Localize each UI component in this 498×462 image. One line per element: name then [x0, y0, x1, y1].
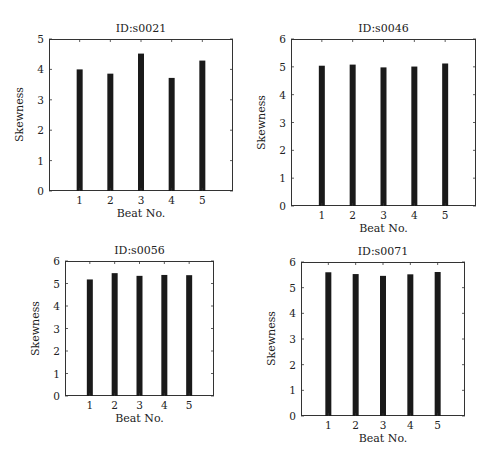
plot-area: 012345612345	[301, 262, 465, 416]
y-axis-label: Skewness	[29, 288, 42, 368]
x-axis-label: Beat No.	[301, 432, 465, 445]
x-axis-label: Beat No.	[49, 207, 233, 220]
y-tick-label: 5	[37, 33, 44, 45]
bar	[137, 276, 143, 396]
y-tick-label: 2	[37, 124, 44, 136]
y-tick-label: 1	[279, 172, 286, 184]
x-axis-label: Beat No.	[291, 222, 476, 235]
y-tick-label: 4	[37, 63, 44, 75]
x-tick-label: 3	[380, 209, 387, 221]
x-tick-label: 4	[407, 419, 414, 431]
bar	[169, 78, 175, 191]
x-tick-label: 1	[318, 209, 325, 221]
bar	[380, 276, 386, 416]
bar	[186, 275, 192, 396]
bar	[381, 67, 387, 206]
y-tick-label: 1	[289, 384, 296, 396]
plot-area: 01234512345	[49, 39, 233, 191]
chart-s0071: ID:s0071 Skewness Beat No. 012345612345	[301, 262, 465, 416]
x-tick-label: 2	[111, 399, 118, 411]
y-tick-label: 2	[279, 144, 286, 156]
y-tick-label: 0	[53, 390, 60, 402]
x-tick-label: 4	[168, 194, 175, 206]
bar	[87, 279, 93, 396]
chart-s0046: ID:s0046 Skewness Beat No. 012345612345	[291, 39, 476, 206]
y-tick-label: 2	[53, 345, 60, 357]
y-tick-label: 6	[53, 255, 60, 267]
chart-s0056: ID:s0056 Skewness Beat No. 012345612345	[65, 261, 214, 396]
x-tick-label: 2	[349, 209, 356, 221]
bar	[350, 65, 356, 206]
x-tick-label: 5	[434, 419, 441, 431]
x-tick-label: 3	[138, 194, 145, 206]
x-tick-label: 5	[442, 209, 449, 221]
bar	[407, 274, 413, 416]
y-tick-label: 0	[37, 185, 44, 197]
y-tick-label: 6	[279, 33, 286, 45]
x-tick-label: 4	[161, 399, 168, 411]
chart-title: ID:s0046	[291, 22, 476, 35]
y-tick-label: 1	[53, 368, 60, 380]
y-tick-label: 5	[279, 61, 286, 73]
x-tick-label: 4	[411, 209, 418, 221]
bar	[107, 74, 113, 191]
x-tick-label: 1	[76, 194, 83, 206]
bar	[77, 69, 83, 191]
bar	[199, 61, 205, 191]
x-tick-label: 2	[107, 194, 114, 206]
y-tick-label: 2	[289, 359, 296, 371]
bar	[325, 272, 331, 416]
y-tick-label: 0	[279, 200, 286, 212]
plot-area: 012345612345	[65, 261, 214, 396]
y-axis-label: Skewness	[13, 75, 26, 155]
chart-title: ID:s0071	[301, 245, 465, 258]
bar	[442, 63, 448, 206]
y-axis-label: Skewness	[255, 82, 268, 162]
y-tick-label: 3	[279, 117, 286, 129]
x-axis-label: Beat No.	[65, 412, 214, 425]
y-tick-label: 3	[37, 94, 44, 106]
bar	[112, 273, 118, 396]
plot-area: 012345612345	[291, 39, 476, 206]
x-tick-label: 2	[352, 419, 359, 431]
x-tick-label: 5	[186, 399, 193, 411]
x-tick-label: 5	[199, 194, 206, 206]
y-tick-label: 0	[289, 410, 296, 422]
bar	[161, 275, 167, 396]
y-tick-label: 5	[289, 282, 296, 294]
bar	[138, 54, 144, 191]
bar	[353, 274, 359, 416]
y-tick-label: 4	[279, 89, 286, 101]
x-tick-label: 1	[325, 419, 332, 431]
y-tick-label: 6	[289, 256, 296, 268]
y-tick-label: 4	[289, 307, 296, 319]
x-tick-label: 3	[380, 419, 387, 431]
y-tick-label: 1	[37, 155, 44, 167]
bar	[319, 66, 325, 206]
bar	[435, 272, 441, 416]
chart-title: ID:s0021	[49, 22, 233, 35]
x-tick-label: 1	[86, 399, 93, 411]
chart-title: ID:s0056	[65, 244, 214, 257]
y-tick-label: 4	[53, 300, 60, 312]
y-axis-label: Skewness	[265, 299, 278, 379]
bar	[411, 67, 417, 206]
x-tick-label: 3	[136, 399, 143, 411]
y-tick-label: 3	[53, 323, 60, 335]
chart-s0021: ID:s0021 Skewness Beat No. 01234512345	[49, 39, 233, 191]
y-tick-label: 3	[289, 333, 296, 345]
y-tick-label: 5	[53, 278, 60, 290]
